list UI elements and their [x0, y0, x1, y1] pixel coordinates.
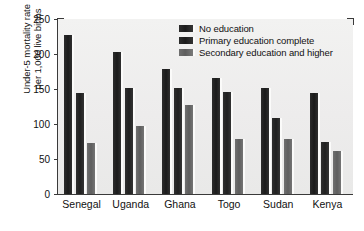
bar-highlight	[269, 88, 271, 194]
bar-highlight	[231, 92, 233, 194]
bar	[284, 139, 294, 194]
bar	[162, 69, 172, 194]
bar	[333, 151, 343, 194]
x-tick-label: Kenya	[313, 198, 343, 210]
legend-swatch-highlight	[193, 25, 195, 32]
bar	[136, 126, 146, 194]
bar-group	[58, 19, 107, 194]
y-tick-label: 100	[24, 119, 50, 130]
bar	[76, 93, 86, 194]
bar	[64, 35, 74, 194]
bar-highlight	[341, 151, 343, 194]
y-tick-label: 50	[24, 154, 50, 165]
legend-swatch-highlight	[193, 49, 195, 56]
x-tick-label: Sudan	[263, 198, 293, 210]
under-5-mortality-bar-chart: Under-5 mortality rate per 1,000 live bi…	[0, 0, 364, 231]
bar-highlight	[318, 93, 320, 194]
bar-highlight	[280, 118, 282, 194]
bar-highlight	[72, 35, 74, 194]
bar-highlight	[133, 88, 135, 194]
x-tick-label: Senegal	[62, 198, 101, 210]
bar-highlight	[329, 142, 331, 194]
y-axis-tick-labels: 050100150200250	[22, 0, 50, 231]
x-axis-tick-labels: SenegalUgandaGhanaTogoSudanKenya	[57, 198, 352, 220]
y-tick-label: 150	[24, 84, 50, 95]
bar-highlight	[292, 139, 294, 194]
bar-highlight	[182, 88, 184, 194]
legend-label: Primary education complete	[199, 35, 314, 46]
bar	[223, 92, 233, 194]
legend-item: No education	[179, 23, 333, 34]
axis-frame-right	[353, 18, 354, 25]
legend: No educationPrimary education completeSe…	[179, 23, 333, 59]
legend-swatch-fill	[179, 37, 193, 44]
legend-item: Primary education complete	[179, 35, 333, 46]
bar-highlight	[193, 105, 195, 194]
bar	[125, 88, 135, 194]
y-tick-label: 200	[24, 49, 50, 60]
bar	[212, 78, 222, 194]
bar	[185, 105, 195, 194]
bar	[310, 93, 320, 194]
legend-swatch-fill	[179, 25, 193, 32]
bar	[272, 118, 282, 194]
legend-label: Secondary education and higher	[199, 47, 333, 58]
legend-swatch	[179, 49, 195, 56]
bar	[87, 143, 97, 194]
legend-swatch	[179, 37, 195, 44]
legend-swatch-fill	[179, 49, 193, 56]
bar-highlight	[170, 69, 172, 194]
bar	[321, 142, 331, 194]
bar-highlight	[220, 78, 222, 194]
bar-highlight	[84, 93, 86, 194]
y-tick-label: 250	[24, 14, 50, 25]
legend-swatch	[179, 25, 195, 32]
bar	[235, 139, 245, 194]
y-tick-mark	[54, 194, 58, 195]
bar-highlight	[243, 139, 245, 194]
x-tick-label: Ghana	[164, 198, 196, 210]
bar-highlight	[144, 126, 146, 194]
bar	[174, 88, 184, 194]
y-tick-label: 0	[24, 189, 50, 200]
bar-highlight	[95, 143, 97, 194]
bar	[261, 88, 271, 194]
legend-swatch-highlight	[193, 37, 195, 44]
legend-label: No education	[199, 23, 254, 34]
bar-group	[107, 19, 156, 194]
bar	[113, 52, 123, 194]
x-tick-label: Uganda	[112, 198, 149, 210]
legend-item: Secondary education and higher	[179, 47, 333, 58]
bar-highlight	[121, 52, 123, 194]
x-tick-label: Togo	[218, 198, 241, 210]
